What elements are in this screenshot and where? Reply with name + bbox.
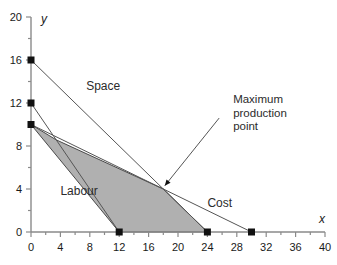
x-tick-label: 36 (289, 241, 301, 253)
maximum-production-point-text-line: production (233, 107, 287, 119)
production-possibility-chart: 0481216202428323640 048121620 SpaceLabou… (0, 0, 337, 265)
x-tick-label: 0 (28, 241, 34, 253)
x-tick-label: 12 (113, 241, 125, 253)
x-tick-label: 24 (201, 241, 213, 253)
endpoint-marker-cost (248, 229, 255, 236)
y-tick-label: 20 (10, 11, 22, 23)
x-tick-label: 28 (231, 241, 243, 253)
x-tick-label: 32 (260, 241, 272, 253)
maximum-production-point-text-line: Maximum (233, 93, 283, 105)
x-tick-label: 20 (172, 241, 184, 253)
x-tick-label: 16 (142, 241, 154, 253)
label-space: Space (86, 79, 120, 93)
y-tick-label: 0 (16, 226, 22, 238)
y-tick-label: 12 (10, 97, 22, 109)
x-tick-label: 8 (87, 241, 93, 253)
endpoint-marker-space (28, 57, 35, 64)
y-axis-label: y (40, 12, 48, 26)
chart-figure: 0481216202428323640 048121620 SpaceLabou… (0, 0, 337, 265)
x-axis-label: x (318, 212, 326, 226)
y-tick-label: 16 (10, 54, 22, 66)
endpoint-marker-labour (116, 229, 123, 236)
label-cost: Cost (207, 196, 232, 210)
maximum-production-point-text-line: point (233, 120, 259, 132)
y-tick-label: 4 (16, 183, 22, 195)
endpoint-marker-cost (28, 121, 35, 128)
endpoint-marker-space (204, 229, 211, 236)
endpoint-marker-labour (28, 100, 35, 107)
x-tick-label: 4 (57, 241, 63, 253)
label-labour: Labour (60, 184, 97, 198)
x-tick-label: 40 (319, 241, 331, 253)
y-tick-label: 8 (16, 140, 22, 152)
